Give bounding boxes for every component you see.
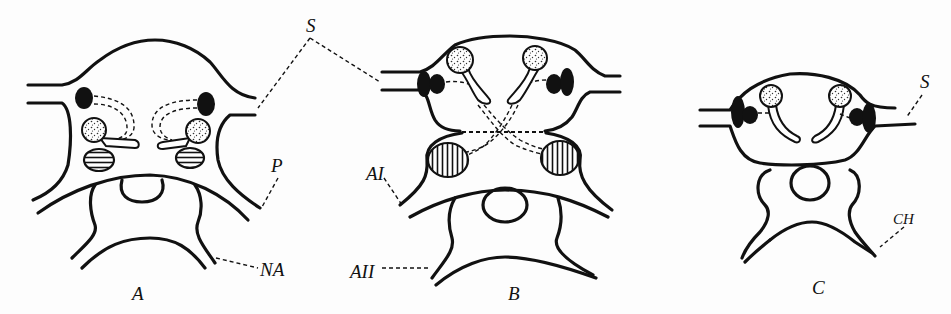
panel-b-cross-4	[460, 105, 518, 153]
leader-ch	[880, 227, 904, 247]
panel-a-outline-side-right	[217, 115, 260, 208]
panel-a-vertebra	[72, 185, 95, 258]
panel-b-nucleus-right-1	[546, 74, 562, 94]
panel-b-outline-mid-right	[545, 92, 620, 131]
panel-a-outline-side-left	[28, 103, 70, 200]
panel-a-stipple-left	[82, 118, 106, 142]
panel-b-nucleus-left-2	[429, 74, 445, 94]
panel-a-stipple-right	[186, 119, 210, 143]
leader-s-to-a	[258, 38, 310, 108]
label-s-c: S	[920, 71, 930, 92]
panel-a-vertebra-right	[195, 185, 215, 263]
figure: S P NA AI AII S CH A B C	[0, 0, 951, 314]
panel-a-stalk-left	[100, 138, 139, 148]
panel-c-vertebra-lower	[770, 222, 872, 253]
panel-c-stalk-left	[768, 105, 800, 142]
panel-c-outline-upper	[700, 74, 895, 110]
panel-c-vertebra-right	[849, 170, 875, 256]
diagram-canvas: S P NA AI AII S CH A B C	[0, 0, 951, 314]
panel-b-outline-mid-left	[382, 90, 460, 131]
panel-a-vertebra-lower	[82, 238, 205, 268]
panel-b	[382, 36, 620, 285]
panel-b-arc	[410, 190, 608, 217]
panel-c-stalk-right	[812, 105, 844, 143]
panel-label-a: A	[130, 283, 144, 304]
leader-s-to-b	[310, 38, 380, 82]
leader-a1	[384, 178, 402, 205]
panel-c-stipple-right	[829, 85, 851, 107]
panel-b-canal	[483, 188, 527, 222]
panel-c-nucleus-left-2	[742, 106, 758, 124]
panel-b-nucleus-left-1	[417, 71, 431, 97]
panel-b-stalk-right	[508, 68, 538, 104]
panel-b-vertebra-left	[432, 198, 455, 278]
panel-b-outline-upper	[382, 36, 620, 76]
label-a1: AI	[364, 163, 386, 184]
panel-b-vertebra-right	[556, 198, 593, 275]
leader-p	[262, 178, 278, 207]
panel-b-stalk-left	[460, 68, 490, 104]
panel-label-c: C	[812, 277, 825, 298]
panel-label-b: B	[508, 283, 520, 304]
panel-b-stipple-right	[523, 46, 547, 70]
panel-a-hatch-left	[84, 149, 114, 171]
panel-a-canal	[121, 180, 163, 202]
label-a2: AII	[348, 261, 376, 282]
panel-a-hatch-right	[176, 148, 204, 168]
panel-c-outline-lower	[700, 124, 915, 165]
panel-a	[28, 40, 260, 268]
panel-c-stipple-left	[760, 85, 782, 107]
leader-s-c	[906, 95, 922, 118]
leader-na	[216, 258, 258, 268]
panel-c	[700, 74, 915, 262]
panel-b-hatch-right	[541, 141, 579, 175]
panel-a-outline-upper	[28, 40, 255, 98]
label-s-ab: S	[306, 15, 316, 36]
panel-b-stipple-left	[447, 47, 473, 73]
label-ch: CH	[893, 211, 915, 227]
label-na: NA	[259, 259, 285, 280]
panel-b-hatch-left	[428, 143, 468, 177]
label-p: P	[270, 155, 283, 176]
panel-a-nucleus-left	[75, 87, 93, 109]
panel-a-stalk-right	[158, 138, 190, 149]
panel-a-arc	[38, 175, 248, 220]
panel-c-nucleus-right-2	[862, 103, 876, 133]
panel-b-nucleus-right-2	[560, 68, 574, 96]
panel-b-cross-2	[484, 105, 552, 150]
panel-c-canal	[791, 166, 829, 200]
panel-a-nucleus-right	[197, 92, 215, 116]
